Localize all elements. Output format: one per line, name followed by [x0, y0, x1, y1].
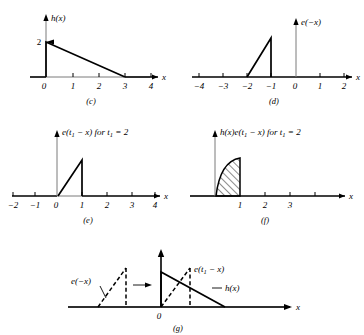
panel-g-label-e-shift-tail: − x) [207, 264, 225, 274]
panel-d-yaxis-arrowhead [293, 18, 298, 25]
panel-e-yaxis-label: e(t1 − x) for t1 = 2 [62, 127, 129, 138]
panel-c-xaxis-label: x [161, 72, 166, 82]
panel-c-tick-label-1: 1 [71, 81, 76, 91]
panel-g-xaxis-arrowhead [284, 304, 292, 310]
figure-canvas: 2 0 1 2 3 4 x h(x) (c) −4 −3 [0, 0, 364, 335]
panel-e-label-tail: = 2 [113, 127, 129, 137]
panel-f-label-tail: = 2 [286, 127, 302, 137]
panel-e-tick-label-3: 3 [129, 200, 135, 210]
panel-d-tick-label-0: 0 [293, 81, 298, 91]
panel-d-tick-label-m1: −1 [266, 81, 277, 91]
panel-g-yaxis-arrowhead [158, 249, 164, 257]
panel-e: −2 −1 0 1 2 3 4 x e(t1 − x) for t1 = 2 (… [8, 127, 168, 225]
panel-c-curve-hx [46, 42, 125, 77]
panel-g-label-e-shift-lead: e(t [194, 264, 204, 274]
panel-c-tick-label-4: 4 [149, 81, 154, 91]
panel-g-curve-hx [161, 272, 225, 307]
panel-c-yaxis-arrowhead [43, 14, 48, 21]
panel-e-label-lead: e(t [62, 127, 72, 137]
panel-c-caption: (c) [86, 96, 96, 106]
panel-e-tick-label-1: 1 [80, 200, 85, 210]
panel-g-origin-label: 0 [157, 311, 162, 321]
panel-f-xaxis-arrowhead [339, 193, 345, 198]
panel-d-xaxis-label: x [355, 72, 360, 82]
panel-d-tick-label-2: 2 [342, 81, 347, 91]
panel-g-label-e-minus-x: e(−x) [71, 276, 91, 286]
panel-f: 1 2 3 x h(x)e(t1 − x) for t1 = 2 (f) [190, 127, 353, 225]
panel-f-yaxis-label: h(x)e(t1 − x) for t1 = 2 [220, 127, 301, 138]
panel-e-caption: (e) [83, 215, 93, 225]
panel-f-xaxis-label: x [348, 191, 353, 201]
panel-g-caption: (g) [173, 323, 183, 333]
panel-c-tick-label-2: 2 [97, 81, 102, 91]
panel-e-label-mid: − x) for t [75, 127, 111, 137]
panel-e-yaxis-arrowhead [54, 130, 59, 137]
panel-e-curve-shifted [58, 160, 82, 196]
panel-f-yaxis-arrowhead [212, 130, 217, 137]
panel-e-tick-label-2: 2 [105, 200, 110, 210]
panel-f-tick-label-1: 1 [238, 200, 243, 210]
panel-g-leader-e-minus-x [100, 286, 106, 298]
panel-f-shaded-product-area [216, 158, 240, 196]
panel-d-caption: (d) [269, 96, 279, 106]
panel-d-tick-label-m4: −4 [194, 81, 205, 91]
panel-g-shift-arrow [133, 282, 152, 287]
panel-c-ylabel-2: 2 [37, 37, 42, 47]
panel-c-tick-label-3: 3 [122, 81, 128, 91]
panel-g-label-e-shift: e(t1 − x) [194, 264, 224, 275]
panel-d: −4 −3 −2 −1 0 1 2 x e(−x) (d) [192, 17, 360, 106]
panel-c-xaxis-arrowhead [152, 74, 158, 79]
panel-f-label-lead: h(x)e(t [220, 127, 244, 137]
panel-e-tick-label-0: 0 [54, 200, 59, 210]
panel-f-tick-label-3: 3 [287, 200, 293, 210]
panel-e-xaxis-label: x [163, 191, 168, 201]
panel-d-curve-e-minus-x [247, 38, 271, 77]
panel-f-label-mid: − x) for t [247, 127, 283, 137]
panel-e-tick-label-m2: −2 [8, 200, 19, 210]
panel-d-tick-label-m2: −2 [242, 81, 253, 91]
panel-e-tick-label-m1: −1 [30, 200, 41, 210]
panel-g: e(−x) e(t1 − x) h(x) 0 x (g) [68, 249, 300, 333]
panel-c: 2 0 1 2 3 4 x h(x) (c) [30, 13, 166, 106]
panel-d-tick-label-m3: −3 [218, 81, 229, 91]
panel-g-label-hx: h(x) [225, 283, 240, 293]
figure-root: 2 0 1 2 3 4 x h(x) (c) −4 −3 [0, 0, 364, 335]
panel-d-xaxis-arrowhead [346, 74, 352, 79]
panel-f-tick-label-2: 2 [263, 200, 268, 210]
panel-d-tick-label-1: 1 [318, 81, 323, 91]
panel-g-xaxis-label: x [295, 302, 300, 312]
panel-e-tick-label-4: 4 [153, 200, 158, 210]
panel-f-caption: (f) [261, 215, 269, 225]
panel-c-yaxis-label: h(x) [51, 13, 66, 23]
panel-g-curve-e-minus-x-ramp [98, 268, 126, 307]
panel-d-yaxis-label: e(−x) [301, 17, 321, 27]
panel-c-tick-label-0: 0 [42, 81, 47, 91]
